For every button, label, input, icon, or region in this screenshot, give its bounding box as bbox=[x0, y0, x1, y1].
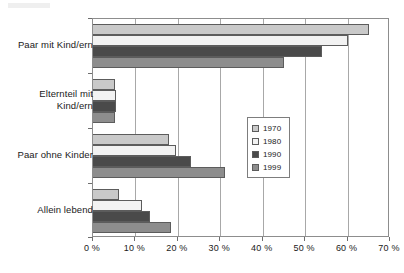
bar-row bbox=[93, 101, 116, 112]
bar-row bbox=[93, 46, 322, 57]
category-label-line: Kind/ern bbox=[0, 100, 93, 112]
bar-1970-2 bbox=[93, 79, 115, 90]
bar-1980-3 bbox=[93, 145, 176, 156]
x-tick-0 bbox=[92, 237, 93, 241]
legend-label: 1999 bbox=[263, 163, 281, 172]
bar-1999-2 bbox=[93, 112, 115, 123]
x-tick-40 bbox=[262, 237, 263, 241]
category-label-line: Paar mit Kind/ern bbox=[0, 39, 93, 51]
bar-1980-2 bbox=[93, 90, 116, 101]
y-tick-3 bbox=[88, 183, 92, 184]
bar-row bbox=[93, 35, 348, 46]
bar-1999-3 bbox=[93, 167, 225, 178]
category-label-line: Allein lebend bbox=[0, 204, 93, 216]
bar-1990-4 bbox=[93, 211, 150, 222]
x-tick-10 bbox=[134, 237, 135, 241]
x-axis-label-10: 10 % bbox=[114, 243, 154, 253]
bar-1990-3 bbox=[93, 156, 191, 167]
legend-swatch-icon bbox=[252, 125, 259, 132]
x-axis-label-40: 40 % bbox=[242, 243, 282, 253]
page-artifact bbox=[8, 3, 50, 8]
y-tick-0 bbox=[88, 18, 92, 19]
bar-row bbox=[93, 189, 119, 200]
x-tick-50 bbox=[304, 237, 305, 241]
legend-swatch-icon bbox=[252, 151, 259, 158]
bar-1970-4 bbox=[93, 189, 119, 200]
category-label-1: Paar mit Kind/ern bbox=[0, 39, 93, 51]
y-tick-1 bbox=[88, 73, 92, 74]
legend-swatch-icon bbox=[252, 164, 259, 171]
x-tick-20 bbox=[177, 237, 178, 241]
chart-legend: 1970198019901999 bbox=[247, 117, 290, 178]
x-axis-label-70: 70 % bbox=[369, 243, 404, 253]
bar-1990-2 bbox=[93, 101, 116, 112]
x-axis-label-50: 50 % bbox=[284, 243, 324, 253]
category-label-3: Paar ohne Kinder bbox=[0, 149, 93, 161]
bar-1970-3 bbox=[93, 134, 169, 145]
bar-row bbox=[93, 200, 142, 211]
gridline-60 bbox=[348, 19, 349, 236]
bar-row bbox=[93, 167, 225, 178]
legend-item-1980: 1980 bbox=[252, 135, 285, 147]
x-axis-label-20: 20 % bbox=[157, 243, 197, 253]
x-axis-label-0: 0 % bbox=[72, 243, 112, 253]
bar-row bbox=[93, 79, 115, 90]
y-tick-2 bbox=[88, 128, 92, 129]
x-tick-30 bbox=[219, 237, 220, 241]
x-axis-label-60: 60 % bbox=[327, 243, 367, 253]
bar-row bbox=[93, 156, 191, 167]
bar-row bbox=[93, 211, 150, 222]
bar-1980-4 bbox=[93, 200, 142, 211]
legend-swatch-icon bbox=[252, 138, 259, 145]
x-axis-label-30: 30 % bbox=[199, 243, 239, 253]
legend-item-list: 1970198019901999 bbox=[252, 122, 285, 173]
category-label-2: Elternteil mitKind/ern bbox=[0, 88, 93, 112]
bar-row bbox=[93, 24, 369, 35]
category-label-line: Paar ohne Kinder bbox=[0, 149, 93, 161]
bar-row bbox=[93, 134, 169, 145]
legend-label: 1980 bbox=[263, 137, 281, 146]
bar-row bbox=[93, 145, 176, 156]
category-label-line: Elternteil mit bbox=[0, 88, 93, 100]
legend-item-1990: 1990 bbox=[252, 148, 285, 160]
plot-area bbox=[92, 18, 389, 237]
bar-1999-4 bbox=[93, 222, 171, 233]
bar-row bbox=[93, 222, 171, 233]
y-tick-4 bbox=[88, 237, 92, 238]
bar-row bbox=[93, 90, 116, 101]
legend-label: 1970 bbox=[263, 124, 281, 133]
category-label-4: Allein lebend bbox=[0, 204, 93, 216]
bar-row bbox=[93, 112, 115, 123]
legend-label: 1990 bbox=[263, 150, 281, 159]
bar-1999-1 bbox=[93, 57, 284, 68]
x-tick-70 bbox=[389, 237, 390, 241]
legend-item-1970: 1970 bbox=[252, 122, 285, 134]
bar-row bbox=[93, 57, 284, 68]
bar-1980-1 bbox=[93, 35, 348, 46]
bar-1990-1 bbox=[93, 46, 322, 57]
bar-1970-1 bbox=[93, 24, 369, 35]
legend-item-1999: 1999 bbox=[252, 161, 285, 173]
x-tick-60 bbox=[347, 237, 348, 241]
